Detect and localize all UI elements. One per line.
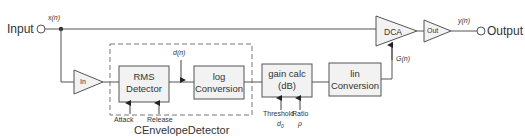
lin-conversion-block: lin Conversion (329, 68, 381, 92)
threshold-label: Threshold (263, 110, 294, 117)
attack-label: Attack (114, 116, 133, 123)
ratio-symbol: ρ (298, 120, 302, 127)
output-label: Output (487, 24, 523, 38)
signal-x-label: x(n) (48, 14, 60, 21)
gain-calc-block: gain calc (dB) (262, 68, 312, 92)
ratio-label: Ratio (292, 110, 308, 117)
log-conversion-block: log Conversion (194, 71, 244, 95)
signal-d-label: d(n) (173, 49, 185, 56)
in-amp-icon (74, 70, 103, 94)
dca-label: DCA (384, 27, 402, 37)
in-amp-label: In (80, 78, 86, 85)
out-amp-label: Out (427, 27, 438, 34)
threshold-symbol: d0 (277, 120, 284, 129)
input-label: Input (7, 22, 34, 36)
signal-g-label: G(n) (396, 55, 410, 62)
signal-y-label: y(n) (458, 17, 470, 24)
envelope-detector-group-label: CEnvelopeDetector (134, 124, 229, 136)
output-terminal-icon (477, 27, 485, 35)
rms-detector-block: RMS Detector (119, 71, 169, 95)
input-terminal-icon (37, 25, 45, 33)
release-label: Release (147, 116, 173, 123)
